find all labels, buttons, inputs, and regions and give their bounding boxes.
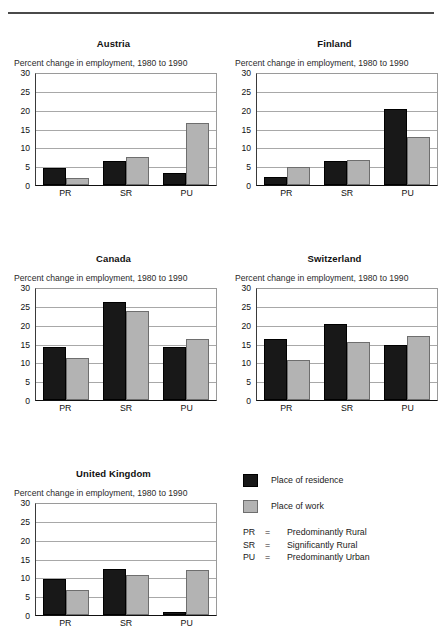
bar-pu-residence [384,345,407,400]
y-tick-label: 25 [20,518,30,526]
abbreviation-text-pu: Predominantly Urban [287,551,370,564]
y-axis-canada: 302520151050 [14,288,30,401]
bar-group-pr [36,504,96,615]
chart-plot-austria: 302520151050PRSRPU [14,73,219,201]
bar-pr-residence [264,177,287,185]
bar-group-sr [317,289,377,400]
x-tick-label: PU [156,403,217,413]
y-tick-label: 30 [20,499,30,507]
bar-sr-work [126,575,149,615]
abbreviation-row-pu: PU = Predominantly Urban [243,551,433,564]
bar-group-pr [36,74,96,185]
bar-pr-residence [43,347,66,400]
y-tick-label: 20 [20,107,30,115]
bar-group-pu [377,74,437,185]
bar-sr-residence [103,569,126,615]
abbreviation-text-sr: Significantly Rural [287,539,357,552]
x-tick-label: PR [35,618,96,627]
x-tick-label: PU [156,618,217,627]
x-tick-label: PU [377,403,438,413]
y-tick-label: 30 [20,284,30,292]
plot-area-finland [256,73,438,186]
y-tick-label: 30 [20,69,30,77]
y-tick-label: 5 [246,163,251,171]
bar-sr-residence [103,302,126,400]
chart-title-finland: Finland [229,38,440,49]
bar-groups-united-kingdom [36,504,216,615]
y-tick-label: 25 [241,88,251,96]
bar-group-pr [257,289,317,400]
y-axis-switzerland: 302520151050 [235,288,251,401]
bar-pr-work [66,358,89,400]
bar-pr-residence [43,579,66,615]
y-tick-label: 20 [241,322,251,330]
y-tick-label: 15 [241,341,251,349]
bar-pu-work [407,137,430,185]
y-tick-label: 25 [241,303,251,311]
bar-group-pu [156,504,216,615]
x-axis-united-kingdom: PRSRPU [35,618,217,627]
y-tick-label: 0 [25,397,30,405]
y-tick-label: 10 [20,574,30,582]
bar-pu-residence [163,612,186,615]
header-divider [8,12,434,14]
bar-group-sr [96,504,156,615]
bar-sr-work [347,342,370,400]
chart-subtitle-united-kingdom: Percent change in employment, 1980 to 19… [14,488,219,498]
x-axis-switzerland: PRSRPU [256,403,438,413]
figure-page: AustriaPercent change in employment, 198… [0,0,442,627]
bar-sr-work [347,160,370,185]
x-tick-label: SR [317,403,378,413]
chart-plot-switzerland: 302520151050PRSRPU [235,288,440,416]
chart-subtitle-switzerland: Percent change in employment, 1980 to 19… [235,273,440,283]
bar-sr-residence [324,324,347,400]
y-tick-label: 30 [241,284,251,292]
bar-sr-residence [324,161,347,185]
chart-plot-united-kingdom: 302520151050PRSRPU [14,503,219,627]
y-tick-label: 10 [241,144,251,152]
y-tick-label: 15 [241,126,251,134]
y-tick-label: 15 [20,126,30,134]
chart-panel-united-kingdom: United KingdomPercent change in employme… [8,468,219,627]
y-tick-label: 20 [241,107,251,115]
bar-pr-work [66,590,89,615]
x-tick-label: SR [96,403,157,413]
plot-area-switzerland [256,288,438,401]
x-axis-canada: PRSRPU [35,403,217,413]
bar-group-pu [377,289,437,400]
chart-panel-switzerland: SwitzerlandPercent change in employment,… [229,253,440,416]
chart-subtitle-finland: Percent change in employment, 1980 to 19… [235,58,440,68]
bar-group-pr [36,289,96,400]
y-tick-label: 25 [20,303,30,311]
y-axis-united-kingdom: 302520151050 [14,503,30,616]
y-tick-label: 5 [25,378,30,386]
abbreviation-equals-pu: = [265,551,287,564]
x-tick-label: SR [317,188,378,198]
chart-subtitle-austria: Percent change in employment, 1980 to 19… [14,58,219,68]
legend-swatch-work-icon [243,500,258,513]
abbreviation-row-pr: PR = Predominantly Rural [243,526,433,539]
bar-group-sr [317,74,377,185]
bar-group-pu [156,289,216,400]
bar-pu-work [186,339,209,400]
plot-area-canada [35,288,217,401]
bar-pu-work [186,123,209,185]
bar-groups-canada [36,289,216,400]
abbreviation-text-pr: Predominantly Rural [287,526,367,539]
y-tick-label: 15 [20,341,30,349]
x-tick-label: SR [96,618,157,627]
y-tick-label: 5 [25,163,30,171]
bar-pu-residence [163,347,186,400]
bar-pu-work [186,570,209,615]
chart-panel-canada: CanadaPercent change in employment, 1980… [8,253,219,416]
abbreviation-code-pu: PU [243,551,265,564]
legend-label-work: Place of work [271,501,324,512]
y-tick-label: 0 [246,397,251,405]
bar-groups-switzerland [257,289,437,400]
chart-title-united-kingdom: United Kingdom [8,468,219,479]
chart-title-switzerland: Switzerland [229,253,440,264]
x-tick-label: PU [377,188,438,198]
chart-title-austria: Austria [8,38,219,49]
chart-title-canada: Canada [8,253,219,264]
bar-pr-work [287,360,310,400]
